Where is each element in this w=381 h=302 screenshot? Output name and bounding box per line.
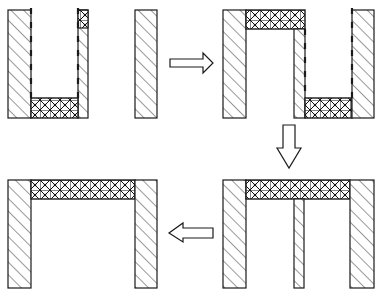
bottom-fill (31, 98, 78, 118)
left-wall (8, 10, 31, 118)
step-2-panel (223, 8, 374, 118)
left-wall (223, 180, 246, 288)
step-1-panel (8, 8, 157, 118)
arrow-down-icon (277, 125, 301, 168)
middle-wall (294, 29, 305, 118)
top-fill (246, 10, 305, 29)
arrow-right-icon (170, 53, 213, 73)
top-fill (31, 180, 135, 199)
bottom-fill (305, 98, 352, 118)
step-4-panel (8, 180, 157, 288)
left-wall (8, 180, 31, 288)
separate-wall (135, 10, 157, 118)
middle-wall (294, 199, 304, 288)
step-3-panel (223, 180, 374, 288)
right-wall (135, 180, 157, 288)
right-wall-cap-fill (78, 10, 88, 28)
right-wall (352, 10, 374, 118)
process-diagram (0, 0, 381, 302)
top-fill (246, 180, 350, 199)
arrow-left-icon (169, 223, 213, 242)
right-wall (350, 180, 374, 288)
left-wall (223, 10, 246, 118)
